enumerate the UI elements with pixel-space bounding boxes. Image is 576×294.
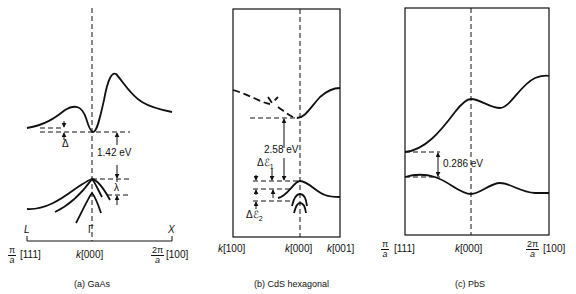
delta-label: Δ: [62, 138, 69, 149]
panel-cds: [233, 9, 340, 237]
delta-e2-label: Δℰ2: [246, 209, 263, 222]
lambda-label: λ: [114, 182, 119, 193]
panel-pbs: [405, 8, 549, 235]
center-k-label: k[000]: [76, 249, 103, 260]
left-k-fraction: πa: [8, 246, 16, 265]
center-k-label-cds: k[000]: [285, 243, 312, 254]
conduction-band: [297, 88, 340, 118]
right-k-dir-pbs: [100]: [543, 243, 565, 254]
conduction-band-dashed: [233, 90, 297, 118]
point-gamma-label: Γ: [88, 224, 94, 235]
gap-label-gaas: 1.42 eV: [97, 147, 131, 158]
right-k-dir: [100]: [166, 249, 188, 260]
caption-gaas: (a) GaAs: [74, 279, 110, 289]
left-k-dir-pbs: [111]: [394, 243, 415, 254]
conduction-band: [405, 76, 549, 152]
conduction-band: [27, 74, 172, 132]
caption-pbs: (c) PbS: [455, 279, 485, 289]
split-off-band: [76, 193, 101, 223]
center-k-label-pbs: k[000]: [455, 243, 482, 254]
valence-band: [405, 175, 549, 194]
caption-cds: (b) CdS hexagonal: [254, 279, 329, 289]
right-k-fraction: 2πa: [151, 246, 164, 265]
panel-gaas: [27, 8, 172, 241]
delta-e1-label: Δℰ1: [257, 157, 274, 170]
axis-bracket: [27, 236, 172, 241]
left-k-fraction-pbs: πa: [381, 240, 389, 259]
gap-label-pbs: 0.286 eV: [443, 158, 483, 169]
left-k-label-cds: k[100]: [218, 243, 245, 254]
right-k-fraction-pbs: 2πa: [526, 240, 539, 259]
point-x-label: X: [168, 224, 175, 235]
light-hole-band: [55, 179, 102, 212]
point-l-label: L: [24, 224, 30, 235]
right-k-label-cds: k[001]: [327, 243, 354, 254]
gap-label-cds: 2.58 eV: [264, 144, 298, 155]
left-k-dir: [111]: [20, 249, 41, 260]
